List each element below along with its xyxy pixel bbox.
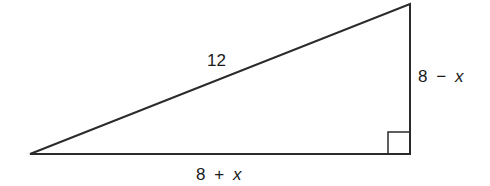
vertical-leg-number: 8 (418, 67, 427, 86)
vertical-leg-label: 8 − x (418, 67, 464, 86)
right-triangle-diagram: 12 8 − x 8 + x (0, 0, 490, 186)
horizontal-leg-variable: x (232, 165, 242, 184)
horizontal-leg-number: 8 (196, 165, 205, 184)
hypotenuse-label: 12 (207, 51, 226, 70)
vertical-leg-variable: x (454, 67, 464, 86)
horizontal-leg-operator: + (214, 165, 224, 184)
vertical-leg-operator: − (436, 67, 446, 86)
triangle-shape (30, 4, 410, 154)
right-angle-marker (388, 132, 410, 154)
horizontal-leg-label: 8 + x (196, 165, 242, 184)
